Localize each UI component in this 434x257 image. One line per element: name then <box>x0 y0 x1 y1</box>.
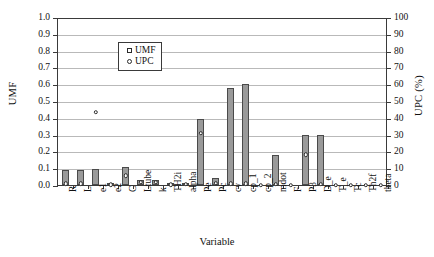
y-tick-left <box>53 35 58 36</box>
y-tick-label-right: 90 <box>394 30 404 40</box>
gridline <box>58 169 386 170</box>
gridline <box>58 152 386 153</box>
x-category-label: D_e <box>324 176 334 192</box>
y-tick-label-right: 70 <box>394 64 404 74</box>
legend-item-upc: UPC <box>123 56 156 67</box>
plot-area: 0.00.10.20.30.40.50.60.70.80.91.0 010203… <box>57 18 387 186</box>
x-category-label: L <box>84 186 94 192</box>
y-axis-left-title: UMF <box>7 64 18 124</box>
x-category-label: e2 <box>114 183 124 192</box>
y-tick-label-left: 0.0 <box>38 181 50 191</box>
circle-marker-icon <box>123 59 135 64</box>
y-tick-right <box>386 18 391 19</box>
y-tick-label-left: 0.1 <box>38 164 50 174</box>
x-category-label: cp_1 <box>249 174 259 192</box>
x-category-label: Th2f <box>369 174 379 192</box>
x-category-label: R <box>69 186 79 192</box>
bar <box>242 84 250 185</box>
x-category-label: alpha <box>189 171 199 192</box>
y-tick-label-right: 20 <box>394 148 404 158</box>
x-axis-title: Variable <box>0 236 434 247</box>
gridline <box>58 35 386 36</box>
x-category-label: F <box>294 187 304 192</box>
y-tick-right <box>386 152 391 153</box>
y-tick-left <box>53 85 58 86</box>
legend-item-umf: UMF <box>123 45 156 56</box>
x-category-label: e1 <box>99 183 109 192</box>
y-tick-right <box>386 68 391 69</box>
y-tick-label-right: 10 <box>394 164 404 174</box>
x-category-label: cv <box>234 183 244 192</box>
y-axis-right-title: UPC (%) <box>413 66 424 126</box>
y-tick-left <box>53 119 58 120</box>
y-tick-label-right: 40 <box>394 114 404 124</box>
bar <box>227 88 235 185</box>
gridline <box>58 85 386 86</box>
gridline <box>58 102 386 103</box>
y-tick-right <box>386 136 391 137</box>
gridline <box>58 68 386 69</box>
y-tick-label-left: 0.5 <box>38 97 50 107</box>
y-tick-label-left: 0.4 <box>38 114 50 124</box>
y-tick-label-left: 0.7 <box>38 64 50 74</box>
data-point <box>93 110 97 114</box>
x-category-label: T_e <box>339 177 349 192</box>
x-category-label: theta <box>384 174 394 192</box>
x-category-label: TH2i <box>174 172 184 192</box>
x-category-label: k <box>159 187 169 192</box>
y-tick-label-right: 60 <box>394 80 404 90</box>
y-tick-left <box>53 169 58 170</box>
y-tick-left <box>53 18 58 19</box>
y-tick-label-left: 0.8 <box>38 47 50 57</box>
y-tick-left <box>53 136 58 137</box>
x-category-label: Pc <box>219 183 229 193</box>
chart-container: UMF UPC (%) Variable 0.00.10.20.30.40.50… <box>0 0 434 257</box>
y-tick-right <box>386 52 391 53</box>
x-category-label: Ltube <box>144 170 154 192</box>
gridline <box>58 136 386 137</box>
y-tick-right <box>386 169 391 170</box>
bar <box>302 135 310 185</box>
y-tick-label-right: 50 <box>394 97 404 107</box>
y-tick-left <box>53 102 58 103</box>
y-tick-label-right: 0 <box>394 181 399 191</box>
y-tick-label-right: 80 <box>394 47 404 57</box>
gridline <box>58 119 386 120</box>
y-tick-label-right: 30 <box>394 131 404 141</box>
square-marker-icon <box>123 48 135 53</box>
x-category-label: Tc <box>354 183 364 192</box>
y-tick-label-left: 0.6 <box>38 80 50 90</box>
y-tick-right <box>386 102 391 103</box>
y-tick-left <box>53 52 58 53</box>
x-category-label: P3 <box>309 182 319 192</box>
y-tick-label-left: 0.2 <box>38 148 50 158</box>
y-tick-right <box>386 35 391 36</box>
chart-legend: UMF UPC <box>118 42 162 71</box>
x-category-label: Pe <box>204 183 214 193</box>
y-tick-right <box>386 85 391 86</box>
x-category-label: C <box>129 186 139 192</box>
gridline <box>58 18 386 19</box>
y-tick-label-left: 0.3 <box>38 131 50 141</box>
y-tick-label-left: 0.9 <box>38 30 50 40</box>
legend-label-umf: UMF <box>135 46 156 56</box>
y-tick-left <box>53 152 58 153</box>
gridline <box>58 52 386 53</box>
legend-label-upc: UPC <box>135 57 153 67</box>
y-tick-label-left: 1.0 <box>38 13 50 23</box>
y-tick-left <box>53 68 58 69</box>
y-tick-label-right: 100 <box>394 13 408 23</box>
y-tick-right <box>386 119 391 120</box>
x-category-label: cp_2 <box>264 174 274 192</box>
x-category-label: mdot <box>279 172 289 192</box>
y-tick-left <box>53 186 58 187</box>
